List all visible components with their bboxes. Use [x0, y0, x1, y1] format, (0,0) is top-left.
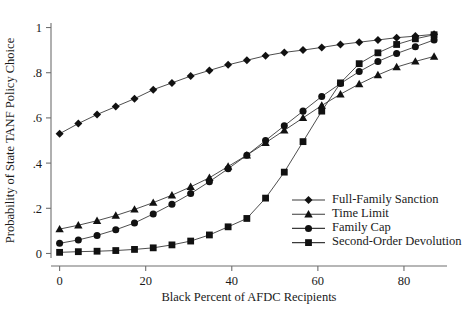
marker-diamond [393, 34, 401, 42]
marker-circle [412, 43, 419, 50]
marker-circle [318, 93, 325, 100]
marker-diamond [305, 196, 313, 204]
marker-diamond [280, 48, 288, 56]
y-tick-label: .2 [33, 202, 42, 216]
marker-square [305, 239, 312, 246]
marker-square [187, 238, 194, 245]
marker-square [262, 195, 269, 202]
marker-triangle [374, 71, 382, 78]
marker-diamond [74, 120, 82, 128]
marker-circle [281, 122, 288, 129]
marker-diamond [93, 111, 101, 119]
marker-square [393, 41, 400, 48]
line-chart: 0.2.4.6.81020406080Black Percent of AFDC… [0, 0, 473, 310]
marker-circle [56, 240, 63, 247]
marker-circle [75, 236, 82, 243]
y-tick-label: 1 [36, 21, 42, 35]
marker-square [56, 249, 63, 256]
legend-label-1: Time Limit [332, 206, 389, 220]
marker-circle [225, 165, 232, 172]
marker-triangle [299, 114, 307, 121]
marker-square [243, 215, 250, 222]
marker-diamond [205, 66, 213, 74]
x-tick-label: 20 [139, 274, 152, 288]
marker-square [412, 35, 419, 42]
marker-diamond [149, 86, 157, 94]
marker-diamond [187, 72, 195, 80]
y-tick-label: .4 [33, 157, 43, 171]
marker-square [375, 49, 382, 56]
marker-square [300, 138, 307, 145]
marker-square [150, 244, 157, 251]
marker-triangle [186, 183, 194, 190]
marker-square [131, 246, 138, 253]
legend-label-2: Family Cap [332, 220, 391, 234]
marker-diamond [131, 95, 139, 103]
y-tick-label: 0 [36, 247, 42, 261]
marker-circle [305, 225, 312, 232]
chart-figure: 0.2.4.6.81020406080Black Percent of AFDC… [0, 0, 473, 310]
marker-triangle [336, 90, 344, 97]
marker-diamond [112, 103, 120, 111]
marker-triangle [168, 191, 176, 198]
marker-circle [168, 201, 175, 208]
y-tick-label: .8 [33, 66, 42, 80]
marker-circle [374, 58, 381, 65]
marker-triangle [149, 198, 157, 205]
legend-label-0: Full-Family Sanction [332, 192, 439, 206]
marker-triangle [318, 101, 326, 108]
marker-circle [299, 108, 306, 115]
marker-triangle [355, 80, 363, 87]
marker-circle [150, 210, 157, 217]
x-axis-label: Black Percent of AFDC Recipients [162, 290, 337, 304]
marker-circle [206, 178, 213, 185]
marker-square [206, 232, 213, 239]
marker-circle [262, 137, 269, 144]
marker-diamond [243, 56, 251, 64]
marker-square [356, 60, 363, 67]
marker-circle [393, 50, 400, 57]
marker-circle [131, 219, 138, 226]
y-tick-label: .6 [33, 111, 42, 125]
marker-diamond [318, 43, 326, 51]
marker-square [225, 223, 232, 230]
marker-diamond [224, 61, 232, 69]
marker-diamond [299, 46, 307, 54]
x-tick-label: 80 [398, 274, 411, 288]
marker-diamond [355, 38, 363, 46]
x-tick-label: 0 [56, 274, 62, 288]
marker-circle [356, 68, 363, 75]
marker-square [75, 248, 82, 255]
marker-circle [187, 190, 194, 197]
marker-diamond [336, 40, 344, 48]
legend-label-3: Second-Order Devolution [332, 234, 462, 248]
marker-circle [112, 226, 119, 233]
marker-square [318, 108, 325, 115]
marker-diamond [56, 130, 64, 138]
marker-circle [94, 232, 101, 239]
marker-square [337, 79, 344, 86]
marker-diamond [262, 52, 270, 60]
marker-triangle [430, 52, 438, 59]
marker-square [431, 31, 438, 38]
marker-square [112, 247, 119, 254]
marker-square [281, 169, 288, 176]
marker-diamond [168, 79, 176, 87]
series-line-0 [60, 34, 434, 133]
marker-circle [243, 152, 250, 159]
x-tick-label: 40 [226, 274, 239, 288]
marker-square [169, 241, 176, 248]
marker-triangle [130, 205, 138, 212]
x-tick-label: 60 [312, 274, 325, 288]
marker-square [94, 248, 101, 255]
y-axis-label: Probability of State TANF Policy Choice [3, 37, 17, 243]
marker-diamond [374, 36, 382, 44]
